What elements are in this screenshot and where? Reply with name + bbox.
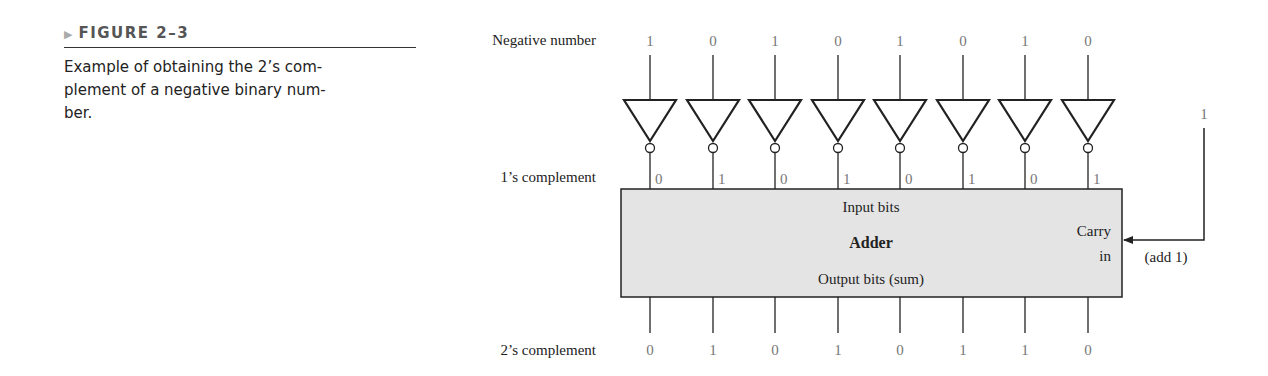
inversion-bubble-icon (959, 144, 968, 153)
negative-bit: 0 (834, 33, 842, 49)
row-label-ones-complement: 1’s complement (501, 169, 597, 185)
carry-in-arrow (1124, 128, 1204, 240)
negative-bit: 1 (1021, 33, 1029, 49)
inverter-gate-icon (624, 100, 676, 141)
twos-complement-bit: 1 (709, 342, 717, 358)
inverter-gate-icon (999, 100, 1051, 141)
twos-complement-bit: 1 (834, 342, 842, 358)
negative-bit: 0 (709, 33, 717, 49)
adder-title: Adder (849, 234, 893, 251)
twos-complement-bit: 0 (1084, 342, 1092, 358)
inversion-bubble-icon (834, 144, 843, 153)
twos-complement-bit: 1 (1021, 342, 1029, 358)
twos-complement-bit: 1 (959, 342, 967, 358)
twos-complement-bit: 0 (896, 342, 904, 358)
ones-complement-bit: 0 (780, 171, 788, 187)
ones-complement-bit: 0 (1030, 171, 1038, 187)
negative-bit: 1 (896, 33, 904, 49)
inverter-gate-icon (749, 100, 801, 141)
inverter-gate-icon (874, 100, 926, 141)
inverter-gate-icon (937, 100, 989, 141)
inverter-gate-icon (687, 100, 739, 141)
inversion-bubble-icon (771, 144, 780, 153)
carry-in-label: in (1099, 248, 1111, 264)
inversion-bubble-icon (709, 144, 718, 153)
row-label-twos-complement: 2’s complement (501, 342, 597, 358)
adder-input-label: Input bits (842, 199, 899, 215)
ones-complement-bit: 1 (718, 171, 726, 187)
ones-complement-bit: 0 (905, 171, 913, 187)
carry-label: Carry (1077, 223, 1112, 239)
twos-complement-diagram: Negative number 1’s complement 2’s compl… (0, 0, 1268, 376)
negative-bit: 0 (959, 33, 967, 49)
inversion-bubble-icon (1021, 144, 1030, 153)
negative-bit: 0 (1084, 33, 1092, 49)
negative-bit: 1 (646, 33, 654, 49)
twos-complement-bit: 0 (771, 342, 779, 358)
negative-bit: 1 (771, 33, 779, 49)
ones-complement-bit: 1 (843, 171, 851, 187)
ones-complement-bit: 0 (655, 171, 663, 187)
inversion-bubble-icon (896, 144, 905, 153)
add-one-note: (add 1) (1145, 249, 1188, 266)
ones-complement-bit: 1 (968, 171, 976, 187)
inverter-gate-icon (1062, 100, 1114, 141)
inverter-gate-icon (812, 100, 864, 141)
row-label-negative: Negative number (492, 32, 596, 48)
adder-output-label: Output bits (sum) (818, 271, 924, 288)
carry-input-bit: 1 (1200, 106, 1208, 122)
ones-complement-bit: 1 (1093, 171, 1101, 187)
inversion-bubble-icon (1084, 144, 1093, 153)
twos-complement-bit: 0 (646, 342, 654, 358)
inversion-bubble-icon (646, 144, 655, 153)
